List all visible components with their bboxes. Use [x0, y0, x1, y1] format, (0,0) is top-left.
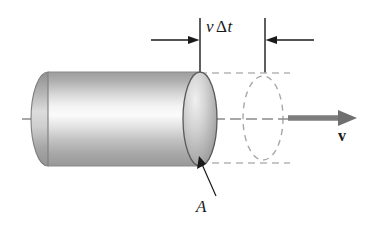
delta-symbol: Δ	[216, 17, 227, 36]
area-leader-shaft	[201, 162, 216, 196]
length-symbol-v: v	[206, 17, 214, 36]
velocity-arrow	[288, 110, 357, 126]
velocity-vector-label: v	[338, 128, 346, 144]
shaded-cylinder	[31, 72, 217, 166]
area-label: A	[196, 198, 206, 215]
velocity-arrowhead	[338, 110, 357, 126]
cylinder-barrel	[48, 72, 200, 166]
cylinder-left-cap	[31, 72, 48, 166]
ghost-ellipse	[243, 76, 283, 160]
right-dimension-arrowhead	[266, 36, 278, 44]
left-dimension-arrowhead	[188, 36, 200, 44]
length-label: v Δt	[206, 18, 233, 35]
cylinder-end-cap-area	[183, 72, 217, 166]
dimension-arrows	[151, 36, 314, 44]
flux-cylinder-figure: v Δt A v	[0, 0, 372, 228]
diagram-canvas	[0, 0, 372, 228]
time-symbol-t: t	[227, 17, 232, 36]
